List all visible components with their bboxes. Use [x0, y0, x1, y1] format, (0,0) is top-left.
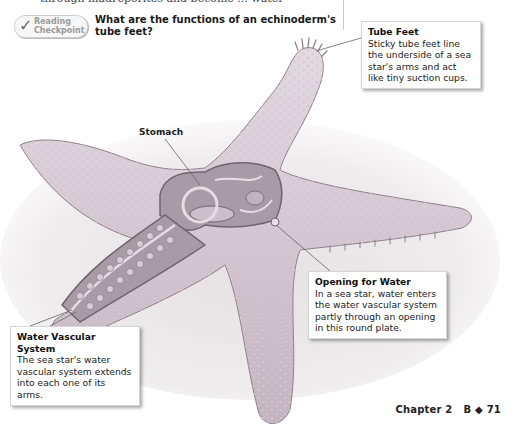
page-footer: Chapter 2 B ◆ 71 — [395, 404, 501, 415]
madreporite-plate — [271, 218, 279, 226]
section-label: B — [464, 404, 472, 415]
callout-title: Water Vascular System — [17, 331, 133, 354]
chapter-label: Chapter 2 — [395, 404, 452, 415]
page-number: 71 — [487, 404, 501, 415]
callout-body: In a sea star, water enters the water va… — [315, 288, 440, 334]
callout-body: Sticky tube feet line the underside of a… — [368, 38, 474, 84]
stomach-label: Stomach — [139, 127, 183, 137]
callout-water-vascular-system: Water Vascular System The sea star's wat… — [10, 326, 140, 406]
callout-body: The sea star's water vascular system ext… — [17, 354, 133, 400]
callout-tube-feet: Tube Feet Sticky tube feet line the unde… — [361, 21, 481, 89]
callout-title: Tube Feet — [368, 26, 474, 38]
diamond-separator-icon: ◆ — [475, 404, 483, 415]
callout-title: Opening for Water — [315, 276, 440, 288]
callout-opening-for-water: Opening for Water In a sea star, water e… — [308, 271, 447, 339]
